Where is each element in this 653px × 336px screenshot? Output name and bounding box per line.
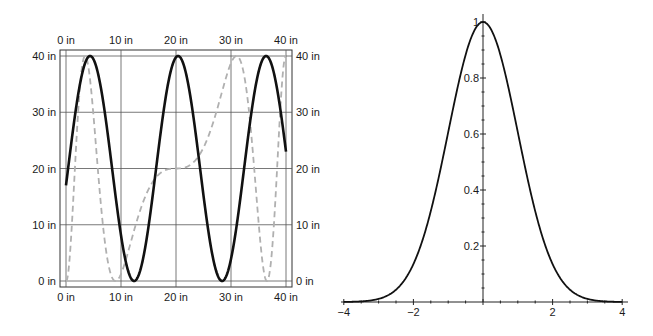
left-chart-x-tick-label-bottom: 30 in bbox=[219, 291, 243, 303]
left-chart-y-tick-label-right: 20 in bbox=[296, 163, 320, 175]
right-chart-x-tick-label: 4 bbox=[619, 306, 625, 318]
figure-canvas: 0 in0 in10 in10 in20 in20 in30 in30 in40… bbox=[0, 0, 653, 336]
left-chart-y-tick-label-right: 10 in bbox=[296, 219, 320, 231]
left-chart-x-tick-label-bottom: 0 in bbox=[57, 291, 75, 303]
right-chart-y-tick-label: 0.2 bbox=[464, 240, 479, 252]
left-chart-y-tick-label-left: 20 in bbox=[32, 163, 56, 175]
left-chart-x-tick-label-top: 10 in bbox=[109, 34, 133, 46]
left-chart-x-tick-label-bottom: 20 in bbox=[164, 291, 188, 303]
right-chart-x-tick-label: −4 bbox=[338, 306, 351, 318]
right-chart-y-tick-label: 0.8 bbox=[464, 72, 479, 84]
left-chart-y-tick-label-right: 0 in bbox=[296, 275, 314, 287]
left-chart-x-tick-label-top: 20 in bbox=[164, 34, 188, 46]
left-chart-x-tick-label-top: 0 in bbox=[57, 34, 75, 46]
left-chart-y-tick-label-right: 40 in bbox=[296, 50, 320, 62]
right-chart-y-tick-label: 0.4 bbox=[464, 184, 479, 196]
right-chart-x-tick-label: 2 bbox=[550, 306, 556, 318]
right-chart-tick-labels: −4−2240.20.40.60.81 bbox=[338, 16, 626, 318]
left-chart: 0 in0 in10 in10 in20 in20 in30 in30 in40… bbox=[32, 34, 320, 303]
right-chart-x-tick-label: −2 bbox=[407, 306, 420, 318]
right-chart: −4−2240.20.40.60.81 bbox=[338, 14, 628, 318]
left-chart-y-tick-label-left: 0 in bbox=[38, 275, 56, 287]
left-chart-x-tick-label-top: 30 in bbox=[219, 34, 243, 46]
left-chart-y-tick-label-right: 30 in bbox=[296, 106, 320, 118]
left-chart-y-tick-label-left: 10 in bbox=[32, 219, 56, 231]
right-chart-y-tick-label: 0.6 bbox=[464, 128, 479, 140]
left-chart-x-tick-label-top: 40 in bbox=[274, 34, 298, 46]
left-chart-x-tick-label-bottom: 40 in bbox=[274, 291, 298, 303]
left-chart-y-tick-label-left: 40 in bbox=[32, 50, 56, 62]
left-chart-x-tick-label-bottom: 10 in bbox=[109, 291, 133, 303]
right-chart-y-tick-label: 1 bbox=[473, 16, 479, 28]
left-chart-y-tick-label-left: 30 in bbox=[32, 106, 56, 118]
